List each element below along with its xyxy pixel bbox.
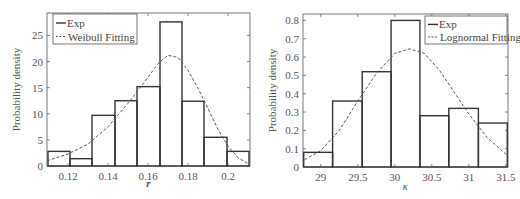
- x-tick-label: 31: [463, 171, 474, 183]
- y-tick-label: 15: [32, 82, 44, 94]
- legend-label-fit: Weibull Fitting: [68, 31, 135, 43]
- lognormal-histogram-chart: 2929.53030.53131.500.10.20.30.40.50.60.7…: [266, 14, 520, 192]
- y-tick-label: 0.3: [285, 106, 299, 118]
- legend: ExpLognormal Fitting: [425, 16, 520, 44]
- y-tick-label: 0.2: [285, 124, 299, 136]
- x-tick-label: 30: [389, 171, 401, 183]
- x-tick-label: 0.12: [58, 170, 77, 182]
- legend-label-fit: Lognormal Fitting: [440, 31, 520, 43]
- x-tick-label: 29.5: [348, 171, 368, 183]
- y-tick-label: 0.4: [285, 88, 299, 100]
- y-tick-label: 0: [294, 161, 300, 173]
- y-tick-label: 0.5: [285, 69, 299, 81]
- y-tick-label: 25: [32, 29, 44, 41]
- y-tick-label: 0.7: [285, 33, 299, 45]
- y-tick-label: 5: [38, 134, 44, 146]
- y-axis-title: Probability density: [266, 48, 278, 132]
- x-tick-label: 30.5: [422, 171, 442, 183]
- legend: ExpWeibull Fitting: [53, 14, 137, 44]
- x-tick-label: 29: [315, 171, 327, 183]
- y-tick-label: 0: [38, 160, 44, 172]
- x-tick-label: 0.14: [98, 170, 118, 182]
- y-tick-label: 20: [32, 56, 44, 68]
- y-tick-label: 0.1: [285, 143, 299, 155]
- x-axis-title: κ: [403, 180, 409, 192]
- y-axis-title: Probability density: [10, 47, 22, 131]
- legend-label-exp: Exp: [439, 18, 457, 30]
- figure: 0.120.140.160.180.20510152025rProbabilit…: [0, 0, 520, 199]
- x-tick-label: 0.2: [221, 170, 235, 182]
- y-tick-label: 0.8: [285, 14, 299, 26]
- x-tick-label: 0.18: [178, 170, 198, 182]
- y-tick-label: 10: [32, 108, 44, 120]
- x-tick-label: 31.5: [496, 171, 516, 183]
- weibull-histogram-chart: 0.120.140.160.180.20510152025rProbabilit…: [10, 13, 250, 189]
- x-axis-title: r: [146, 177, 151, 189]
- y-tick-label: 0.6: [285, 51, 299, 63]
- legend-label-exp: Exp: [67, 17, 85, 29]
